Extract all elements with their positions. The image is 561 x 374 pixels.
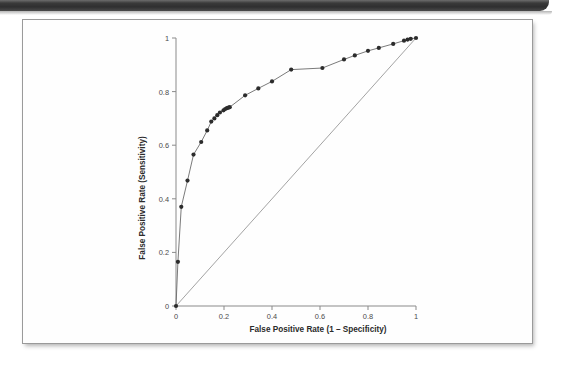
- roc-data-point: [176, 260, 180, 264]
- roc-data-point: [391, 42, 395, 46]
- y-tick-label: 0.2: [159, 248, 169, 257]
- roc-data-point: [377, 46, 381, 50]
- roc-data-point: [185, 178, 189, 182]
- roc-data-point: [402, 39, 406, 43]
- y-tick-label: 0: [165, 302, 169, 311]
- y-tick-label: 0.6: [159, 141, 169, 150]
- axis-ticklabels-group: 00.20.40.60.8100.20.40.60.81: [159, 34, 418, 321]
- roc-data-point: [218, 110, 222, 114]
- roc-data-point: [366, 49, 370, 53]
- x-tick-label: 0.6: [315, 312, 325, 321]
- roc-data-point: [256, 86, 260, 90]
- roc-data-point: [209, 120, 213, 124]
- roc-data-point: [289, 68, 293, 72]
- roc-data-point: [212, 116, 216, 120]
- roc-data-point: [342, 57, 346, 61]
- roc-data-point: [228, 105, 232, 109]
- x-tick-label: 0.2: [219, 312, 229, 321]
- y-tick-label: 0.4: [159, 195, 169, 204]
- x-tick-label: 1: [414, 312, 418, 321]
- scan-header-bar: [0, 0, 549, 11]
- roc-data-point: [199, 140, 203, 144]
- roc-plot: 00.20.40.60.8100.20.40.60.81 False Posit…: [23, 20, 534, 345]
- roc-data-point: [409, 37, 413, 41]
- roc-data-point: [320, 66, 324, 70]
- roc-chart-svg: 00.20.40.60.8100.20.40.60.81 False Posit…: [23, 20, 534, 345]
- x-tick-label: 0.4: [267, 312, 277, 321]
- roc-data-point: [414, 36, 418, 40]
- roc-data-point: [174, 304, 178, 308]
- x-axis-title: False Positive Rate (1 – Specificity): [250, 325, 387, 334]
- roc-data-point: [353, 53, 357, 57]
- roc-data-point: [191, 152, 195, 156]
- chance-diagonal-line: [176, 38, 416, 306]
- figure-card: 00.20.40.60.8100.20.40.60.81 False Posit…: [22, 19, 533, 344]
- x-tick-label: 0: [174, 312, 178, 321]
- y-tick-label: 0.8: [159, 88, 169, 97]
- roc-data-point: [243, 93, 247, 97]
- roc-data-point: [205, 128, 209, 132]
- scan-header-bar-shadow: [0, 11, 552, 15]
- y-axis-title: False Positive Rate (Sensitivity): [138, 136, 147, 260]
- roc-data-point: [179, 205, 183, 209]
- y-tick-label: 1: [165, 34, 169, 43]
- roc-data-point: [270, 79, 274, 83]
- x-tick-label: 0.8: [363, 312, 373, 321]
